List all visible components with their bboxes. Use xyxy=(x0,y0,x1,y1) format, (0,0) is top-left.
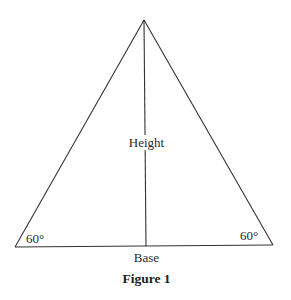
angle-left-label: 60° xyxy=(26,232,44,246)
height-label-wrap: Height xyxy=(0,136,291,150)
figure-caption: Figure 1 xyxy=(0,271,291,287)
figure-canvas: Height 60° 60° Base Figure 1 xyxy=(0,0,291,300)
triangle-right-side xyxy=(144,20,273,245)
base-label: Base xyxy=(0,251,291,265)
angle-right-label: 60° xyxy=(240,229,258,243)
height-label: Height xyxy=(128,135,165,150)
triangle-left-side xyxy=(15,20,144,247)
height-line xyxy=(144,20,146,246)
triangle-base xyxy=(15,245,273,247)
